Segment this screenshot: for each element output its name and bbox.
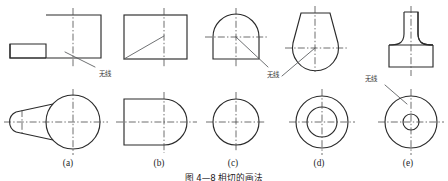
view-c-group: 无线 (c) (205, 8, 280, 169)
figure-caption: 图 4—8 相切的画法 (185, 172, 264, 181)
view-a-annotation-label: 无线 (99, 69, 112, 78)
view-d-front-outline (293, 13, 339, 71)
view-e-label: (e) (403, 158, 413, 169)
view-a-front-tab-top (10, 44, 46, 58)
view-e-group: 无线 (e) (365, 6, 444, 169)
view-b-leader-line (124, 36, 164, 59)
view-a-top-cone-upper (16, 104, 53, 112)
view-a-group: 无线 (a) (4, 8, 112, 169)
view-e-front-stem-left (389, 12, 404, 45)
view-e-front-stem-right (418, 12, 433, 45)
view-b-front-outline (124, 15, 187, 59)
view-a-front-outline (10, 15, 101, 58)
view-c-label: (c) (228, 158, 238, 169)
view-a-leader-line (65, 52, 95, 67)
figure-canvas: 无线 (a) (b) (0, 0, 448, 181)
view-c-leader-line (236, 37, 268, 67)
engineering-drawing-figure: 无线 (a) (b) (0, 0, 448, 181)
view-a-front-view (10, 15, 101, 58)
view-d-group: (d) (282, 6, 355, 169)
view-b-group: (b) (116, 8, 197, 169)
view-e-annotation-label: 无线 (365, 74, 378, 83)
view-b-label: (b) (154, 158, 165, 169)
view-a-label: (a) (63, 158, 73, 169)
view-c-annotation-label: 无线 (267, 70, 280, 79)
view-d-label: (d) (314, 158, 325, 169)
view-d-leader-line (282, 48, 315, 76)
view-a-top-cone-lower (16, 132, 53, 140)
